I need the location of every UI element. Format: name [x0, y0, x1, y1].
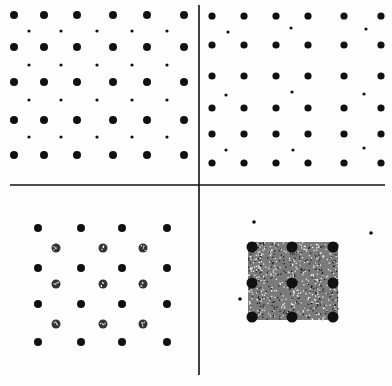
stray-dot: [252, 220, 256, 224]
speckle: [318, 314, 319, 315]
speckle: [256, 271, 257, 272]
speckle: [264, 310, 265, 311]
speckle: [281, 307, 282, 308]
speckled-dot: [52, 320, 61, 329]
speckle: [282, 305, 283, 306]
large-dot: [40, 11, 48, 19]
speckle-gap: [103, 324, 104, 325]
large-dot: [34, 338, 42, 346]
speckle: [296, 263, 297, 264]
speckle: [251, 292, 252, 293]
speckle: [258, 269, 259, 270]
speckle: [270, 298, 271, 299]
speckle: [262, 245, 263, 246]
speckle: [300, 292, 301, 293]
speckle: [249, 304, 250, 305]
large-dot: [109, 11, 117, 19]
speckle: [283, 312, 284, 313]
speckle: [249, 302, 250, 303]
speckle: [260, 267, 261, 268]
speckle: [319, 299, 320, 300]
speckle: [295, 271, 296, 272]
speckle: [260, 258, 261, 259]
speckle: [335, 309, 336, 310]
speckle: [337, 293, 338, 294]
speckle: [327, 259, 328, 260]
speckle: [327, 276, 328, 277]
speckle: [260, 247, 261, 248]
large-dot: [34, 264, 42, 272]
speckle: [279, 260, 280, 261]
speckle: [282, 262, 283, 263]
speckle: [258, 258, 259, 259]
speckle: [250, 254, 251, 255]
speckle: [279, 316, 280, 317]
speckle: [262, 310, 263, 311]
speckle: [253, 262, 254, 263]
speckle: [289, 289, 290, 290]
speckle: [335, 254, 336, 255]
small-dot: [130, 135, 133, 138]
large-dot: [163, 264, 171, 272]
speckle: [331, 256, 332, 257]
speckle: [305, 293, 306, 294]
speckle: [334, 306, 335, 307]
speckle: [259, 262, 260, 263]
speckle: [257, 288, 258, 289]
large-dot: [272, 41, 279, 48]
speckle: [258, 252, 259, 253]
speckle: [275, 244, 276, 245]
speckle: [333, 305, 334, 306]
speckle-gap: [105, 322, 106, 323]
speckle-gap: [53, 322, 54, 323]
speckle: [280, 274, 281, 275]
large-dot: [240, 159, 247, 166]
speckle: [335, 269, 336, 270]
large-dot: [304, 130, 311, 137]
speckle: [330, 296, 331, 297]
speckle: [319, 291, 320, 292]
speckle: [324, 308, 325, 309]
speckle: [291, 271, 292, 272]
speckle: [318, 303, 319, 304]
speckle: [254, 275, 255, 276]
speckle: [271, 273, 272, 274]
speckle-gap: [101, 285, 102, 286]
speckle: [283, 295, 284, 296]
speckle: [277, 297, 278, 298]
small-dot: [289, 26, 292, 29]
speckle: [315, 295, 316, 296]
speckle: [269, 266, 270, 267]
speckle: [310, 252, 311, 253]
speckle: [297, 298, 298, 299]
speckle: [335, 277, 336, 278]
speckle: [258, 277, 259, 278]
large-dot: [377, 12, 384, 19]
speckle: [321, 269, 322, 270]
speckle: [335, 300, 336, 301]
small-dot: [27, 63, 30, 66]
speckle: [262, 254, 263, 255]
speckle: [264, 309, 265, 310]
speckle: [309, 297, 310, 298]
large-dot: [328, 242, 339, 253]
speckle: [337, 300, 338, 301]
speckle: [337, 263, 338, 264]
speckle: [320, 302, 321, 303]
speckle: [260, 312, 261, 313]
large-dot: [109, 151, 117, 159]
speckle-gap: [55, 321, 56, 322]
speckle-gap: [53, 246, 54, 247]
speckle: [275, 258, 276, 259]
speckle: [319, 280, 320, 281]
speckle: [320, 313, 321, 314]
speckle: [270, 246, 271, 247]
speckle: [258, 254, 259, 255]
large-dot: [73, 151, 81, 159]
speckle: [261, 254, 262, 255]
small-dot: [130, 63, 133, 66]
speckle: [249, 291, 250, 292]
large-dot: [10, 43, 18, 51]
speckle: [313, 288, 314, 289]
speckle: [323, 275, 324, 276]
